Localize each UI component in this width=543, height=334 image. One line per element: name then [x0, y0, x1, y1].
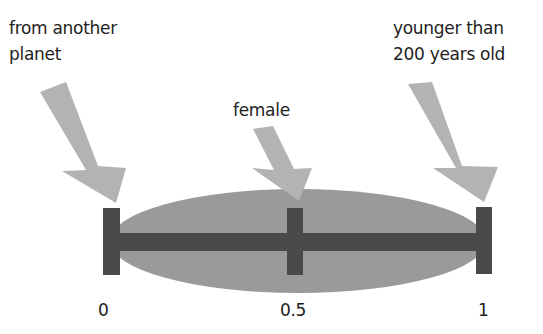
axis-tick-label-0-5: 0.5 — [280, 298, 306, 322]
label-younger-than-line2: 200 years old — [393, 42, 505, 66]
label-from-another-planet-line2: planet — [9, 42, 61, 66]
tick-0-5 — [287, 208, 303, 275]
tick-0 — [103, 208, 120, 275]
axis-tick-label-1: 1 — [478, 298, 489, 322]
label-younger-than-line1: younger than — [393, 16, 504, 40]
arrow-left-icon — [40, 82, 126, 203]
label-female: female — [233, 98, 290, 122]
label-from-another-planet-line1: from another — [9, 16, 117, 40]
arrow-right-icon — [408, 82, 498, 202]
axis-tick-label-0: 0 — [98, 298, 109, 322]
tick-1 — [476, 207, 492, 274]
